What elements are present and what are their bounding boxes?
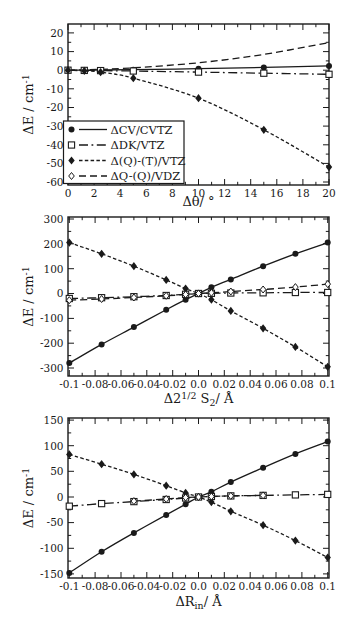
legend: ΔCV/CVTZΔDK/VTZΔ(Q)-(T)/VTZΔQ-(Q)/VDZ xyxy=(64,121,186,184)
y-tick-label: 0 xyxy=(57,491,64,503)
series-line-0 xyxy=(69,243,327,364)
y-tick-label: -20 xyxy=(47,101,64,113)
x-tick-label: -0.1 xyxy=(59,378,79,390)
y-tick-label: -10 xyxy=(47,83,64,95)
x-tick-label: 0.06 xyxy=(264,580,288,592)
data-point xyxy=(98,250,104,258)
x-tick-label: 0.02 xyxy=(213,580,236,592)
y-tick-label: -50 xyxy=(47,516,64,528)
series-markers-0 xyxy=(66,240,330,367)
data-point xyxy=(260,521,266,529)
data-point xyxy=(228,479,234,485)
chart-1: 0246810121416182020100-10-20-30-40-50-60… xyxy=(20,24,336,209)
data-point xyxy=(260,324,266,332)
x-tick-label: 0.04 xyxy=(239,378,263,390)
y-tick-label: -100 xyxy=(40,542,64,554)
y-tick-label: -200 xyxy=(40,337,64,349)
x-tick-label: 0.02 xyxy=(213,378,236,390)
data-point xyxy=(163,512,169,518)
data-point xyxy=(228,307,234,315)
x-tick-label: 6 xyxy=(143,187,150,199)
x-tick-label: 16 xyxy=(270,187,284,199)
y-tick-label: -40 xyxy=(47,139,64,151)
x-tick-label: 0.08 xyxy=(290,378,313,390)
data-point xyxy=(326,71,332,77)
y-axis-label: ΔE / cm-1 xyxy=(20,468,36,528)
x-tick-label: -0.04 xyxy=(133,378,160,390)
x-tick-label: -0.02 xyxy=(159,580,186,592)
x-tick-label: 0 xyxy=(65,187,72,199)
data-point xyxy=(228,276,234,282)
data-point xyxy=(195,69,201,75)
x-tick-label: -0.06 xyxy=(108,580,135,592)
series-markers-0 xyxy=(66,439,330,576)
data-point xyxy=(130,68,136,74)
y-tick-label: 300 xyxy=(43,213,63,225)
data-point xyxy=(260,465,266,471)
data-point xyxy=(131,530,137,536)
data-point xyxy=(163,307,169,313)
data-point xyxy=(326,163,332,171)
data-point xyxy=(131,324,137,330)
y-tick-label: -150 xyxy=(40,568,64,580)
data-point xyxy=(99,549,105,555)
series-line-2 xyxy=(69,454,327,557)
y-axis-label: ΔE / cm-1 xyxy=(20,266,36,326)
y-tick-label: 0 xyxy=(57,287,64,299)
data-point xyxy=(66,360,72,366)
data-point xyxy=(163,482,169,490)
y-tick-label: 150 xyxy=(43,414,63,426)
x-tick-label: 18 xyxy=(296,187,309,199)
legend-label: Δ(Q)-(T)/VTZ xyxy=(111,154,186,168)
x-tick-label: 0.08 xyxy=(290,580,313,592)
data-point xyxy=(325,240,331,246)
data-point xyxy=(261,126,267,134)
data-point xyxy=(325,289,331,295)
series-markers-2 xyxy=(66,239,331,371)
x-axis-label: ΔRin/ Å xyxy=(175,594,222,611)
x-tick-label: 0.06 xyxy=(264,378,288,390)
data-point xyxy=(292,492,298,498)
figure-page: 0246810121416182020100-10-20-30-40-50-60… xyxy=(0,0,351,631)
x-tick-label: -0.08 xyxy=(82,378,109,390)
y-tick-label: -100 xyxy=(40,312,64,324)
y-tick-label: -30 xyxy=(47,120,64,132)
chart-3: -0.1-0.08-0.06-0.04-0.020.00.020.040.060… xyxy=(20,414,336,611)
x-tick-label: 20 xyxy=(322,187,335,199)
data-point xyxy=(292,343,298,351)
x-tick-label: -0.04 xyxy=(133,580,160,592)
x-tick-label: 8 xyxy=(169,187,176,199)
x-tick-label: 14 xyxy=(244,187,258,199)
x-tick-label: -0.02 xyxy=(159,378,186,390)
data-point xyxy=(163,276,169,284)
data-point xyxy=(131,470,137,478)
data-point xyxy=(99,501,105,507)
legend-marker xyxy=(69,127,75,133)
x-tick-label: 4 xyxy=(117,187,124,199)
x-tick-label: 0.0 xyxy=(190,378,207,390)
x-axis-label: Δ21/2 S2/ Å xyxy=(164,390,234,408)
data-point xyxy=(66,239,72,247)
data-point xyxy=(261,70,267,76)
data-point xyxy=(260,263,266,269)
x-tick-label: 12 xyxy=(218,187,231,199)
data-point xyxy=(325,363,331,371)
data-point xyxy=(325,491,331,497)
data-point xyxy=(131,262,137,270)
y-tick-label: 0 xyxy=(57,64,64,76)
data-point xyxy=(325,553,331,561)
legend-label: ΔCV/CVTZ xyxy=(111,123,173,137)
y-tick-label: 20 xyxy=(50,27,63,39)
y-tick-label: 10 xyxy=(50,45,63,57)
data-point xyxy=(292,251,298,257)
x-tick-label: 2 xyxy=(91,187,98,199)
x-tick-label: 0.1 xyxy=(319,378,336,390)
data-point xyxy=(66,570,72,576)
series-markers-3 xyxy=(131,492,266,505)
data-point xyxy=(130,74,136,82)
y-tick-label: 100 xyxy=(43,263,63,275)
x-tick-label: 0.04 xyxy=(239,580,263,592)
data-point xyxy=(195,94,201,102)
legend-label: ΔDK/VTZ xyxy=(111,138,165,152)
data-point xyxy=(292,537,298,545)
